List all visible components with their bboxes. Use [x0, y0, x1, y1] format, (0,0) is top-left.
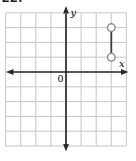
- problem-number: 22.: [2, 0, 23, 5]
- figure-container: 22. y x 0: [0, 0, 136, 161]
- open-endpoint-circle: [108, 53, 116, 61]
- y-axis-down-arrow-icon: [63, 144, 69, 152]
- coordinate-plane: y x 0: [0, 0, 136, 161]
- open-endpoint-circle: [108, 24, 116, 32]
- y-axis-up-arrow-icon: [63, 6, 69, 14]
- x-axis-label: x: [119, 58, 125, 69]
- x-axis-left-arrow-icon: [6, 69, 14, 75]
- y-axis-label: y: [70, 7, 77, 18]
- origin-label: 0: [57, 73, 63, 84]
- x-axis-right-arrow-icon: [121, 69, 129, 75]
